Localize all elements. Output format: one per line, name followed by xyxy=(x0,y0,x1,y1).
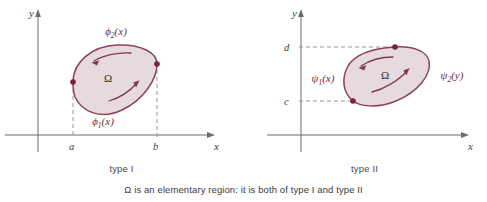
panel-type-ii: y x d c Ω ψ1(x) ψ2(y) type II xyxy=(243,0,486,178)
tick-label-b: b xyxy=(153,141,158,152)
curve-label-psi1-arg: (x) xyxy=(322,72,335,85)
y-axis-arrowhead xyxy=(35,9,41,17)
y-axis-label: y xyxy=(291,7,297,19)
region-omega-type-i xyxy=(73,45,157,115)
vertex-dot-left xyxy=(70,79,76,85)
curve-label-phi2: ϕ2(x) xyxy=(105,25,127,40)
curve-label-phi1: ϕ1(x) xyxy=(92,115,114,130)
curve-label-psi2-arg: (y) xyxy=(451,69,464,82)
panel-caption-type-i: type I xyxy=(0,163,243,174)
curve-label-psi2: ψ2(y) xyxy=(441,69,464,84)
x-axis-label: x xyxy=(213,140,219,152)
curve-label-psi1: ψ1(x) xyxy=(312,72,335,87)
figure-root: y x a b Ω ϕ2(x) ϕ1(x) type I xyxy=(0,0,487,202)
curve-label-phi2-arg: (x) xyxy=(115,25,128,38)
panel-type-i: y x a b Ω ϕ2(x) ϕ1(x) type I xyxy=(0,0,243,178)
region-label-omega: Ω xyxy=(381,69,389,81)
region-label-omega: Ω xyxy=(104,72,112,84)
vertex-dot-bottom xyxy=(350,98,356,104)
figure-caption: Ω is an elementary region: it is both of… xyxy=(0,184,487,195)
panel-caption-type-ii: type II xyxy=(243,163,486,174)
vertex-dot-right xyxy=(154,61,160,67)
x-axis-arrowhead xyxy=(461,132,469,138)
tick-label-c: c xyxy=(284,96,289,107)
curve-label-phi1-arg: (x) xyxy=(102,115,115,128)
x-axis-arrowhead xyxy=(207,132,215,138)
tick-label-d: d xyxy=(284,42,290,53)
type-ii-diagram: y x d c Ω ψ1(x) ψ2(y) xyxy=(243,0,486,163)
tick-label-a: a xyxy=(69,141,74,152)
vertex-dot-top xyxy=(392,44,398,50)
x-axis-label: x xyxy=(467,140,473,152)
type-i-diagram: y x a b Ω ϕ2(x) ϕ1(x) xyxy=(0,0,243,163)
y-axis-arrowhead xyxy=(298,9,304,17)
y-axis-label: y xyxy=(28,7,34,19)
